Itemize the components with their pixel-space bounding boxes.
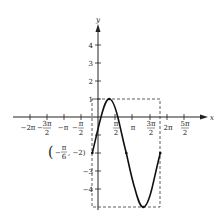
tick-neg-pi2-num: π — [79, 120, 84, 128]
tick-5pi2-num: 5π — [180, 120, 189, 128]
tick-neg-3pi2-num: 3π — [42, 120, 51, 128]
tick-neg-2pi: −2π — [21, 124, 36, 132]
x-axis-label: x — [210, 114, 214, 122]
tick-2pi: 2π — [163, 124, 172, 132]
tick-pi: π — [131, 124, 136, 132]
tick-neg-pi2-den: 2 — [79, 129, 83, 137]
tick-5pi2-den: 2 — [183, 129, 187, 137]
tick-y-4: 4 — [89, 42, 94, 50]
tick-neg-pi2-minus: − — [72, 124, 78, 132]
tick-pi2-num: π — [114, 120, 119, 128]
tick-3pi2-num: 3π — [146, 120, 155, 128]
tick-neg-3pi2-den: 2 — [45, 129, 49, 137]
y-axis-arrow-icon — [96, 24, 101, 32]
function-graph: x y −2π − 3π 2 −π − π 2 π 2 π 3π 2 2π 5π — [0, 0, 220, 218]
x-tick-labels: −2π − 3π 2 −π − π 2 π 2 π 3π 2 2π 5π 2 — [21, 120, 190, 137]
x-axis-arrow-icon — [200, 115, 208, 120]
tick-y-2: 2 — [89, 78, 93, 86]
annotation-rest: , −2) — [68, 149, 86, 157]
tick-3pi2-den: 2 — [149, 129, 153, 137]
point-annotation: ( − π 6 , −2) — [48, 144, 86, 161]
annotation-six: 6 — [62, 153, 67, 161]
annotation-pi: π — [62, 144, 67, 152]
tick-y-neg3: −3 — [83, 168, 93, 176]
annotation-open-paren: ( — [48, 144, 53, 160]
tick-pi2-den: 2 — [114, 129, 118, 137]
y-axis-label: y — [95, 16, 101, 24]
annotation-minus: − — [55, 149, 61, 157]
tick-y-3: 3 — [89, 60, 93, 68]
tick-neg-pi: −π — [58, 124, 69, 132]
